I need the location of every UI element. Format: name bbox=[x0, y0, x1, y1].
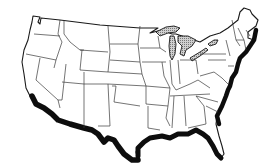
us-map-svg bbox=[0, 0, 275, 164]
country-outline bbox=[22, 8, 258, 160]
us-map: Contiguous United States outline map bbox=[0, 0, 275, 164]
